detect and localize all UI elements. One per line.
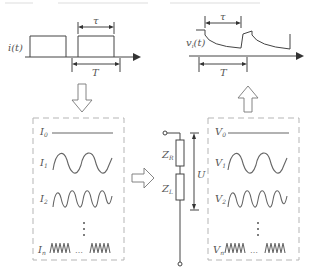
diagram-canvas: i(t) τ T vi(t) τ xyxy=(0,0,314,280)
dim-arrowhead-icon xyxy=(236,21,241,25)
dim-arrowhead-icon xyxy=(72,62,77,66)
voltage-label: U xyxy=(197,169,206,180)
output-waveform xyxy=(196,30,290,49)
resistor-zl xyxy=(176,174,184,200)
tau-label: τ xyxy=(220,11,226,22)
dim-arrowhead-icon xyxy=(109,25,114,29)
output-voltage-signal: vi(t) τ T xyxy=(186,11,304,78)
component-label-v1: V1 xyxy=(215,157,226,169)
impedance-label-zl: ZL xyxy=(161,183,173,195)
svg-text:…: … xyxy=(75,246,83,255)
sine-waveform xyxy=(228,191,287,207)
dim-arrowhead-icon xyxy=(205,21,210,25)
period-label: T xyxy=(92,67,100,78)
impedance-circuit: ZR ZL U xyxy=(161,131,206,266)
hf-waveform xyxy=(265,243,285,253)
component-label-v2: V2 xyxy=(215,193,226,205)
terminal-top xyxy=(163,131,167,135)
arrow-up-icon xyxy=(238,86,258,112)
dim-arrowhead-icon xyxy=(192,204,196,210)
pulse-2 xyxy=(78,36,114,57)
impedance-label-zr: ZR xyxy=(161,149,174,161)
arrow-right-icon xyxy=(132,168,154,188)
dashed-box xyxy=(33,118,124,260)
voltage-components-panel: V0 V1 V2 Vn … xyxy=(208,118,299,260)
component-label-i1: I1 xyxy=(39,157,48,169)
dim-arrowhead-icon xyxy=(199,62,204,66)
dim-arrowhead-icon xyxy=(78,25,83,29)
hf-waveform xyxy=(90,243,110,253)
svg-text:vi(t): vi(t) xyxy=(186,37,205,49)
axis-arrowhead-icon xyxy=(296,52,304,60)
component-label-vn: Vn xyxy=(213,244,224,256)
dim-arrowhead-icon xyxy=(192,133,196,139)
component-label-in: In xyxy=(37,244,46,256)
component-label-i2: I2 xyxy=(39,193,48,205)
sine-waveform xyxy=(228,153,287,173)
hf-waveform xyxy=(50,243,70,253)
axis-arrowhead-icon xyxy=(133,53,141,61)
period-label: T xyxy=(220,67,228,78)
component-label-v0: V0 xyxy=(215,126,226,138)
svg-text:…: … xyxy=(250,246,258,255)
dim-arrowhead-icon xyxy=(242,62,247,66)
tau-label: τ xyxy=(93,15,99,26)
current-components-panel: I0 I1 I2 In … xyxy=(33,118,124,260)
arrow-down-icon xyxy=(72,84,92,112)
input-signal-label: i(t) xyxy=(8,42,23,53)
pulse-1 xyxy=(30,36,66,57)
dim-arrowhead-icon xyxy=(115,62,120,66)
sine-waveform xyxy=(53,191,112,207)
header-captions xyxy=(5,2,260,4)
terminal-bottom xyxy=(178,262,182,266)
sine-waveform xyxy=(53,153,112,173)
dashed-box xyxy=(208,118,299,260)
input-pulse-signal: i(t) τ T xyxy=(8,15,141,78)
component-label-i0: I0 xyxy=(39,126,48,138)
hf-waveform xyxy=(225,243,245,253)
resistor-zr xyxy=(176,140,184,166)
